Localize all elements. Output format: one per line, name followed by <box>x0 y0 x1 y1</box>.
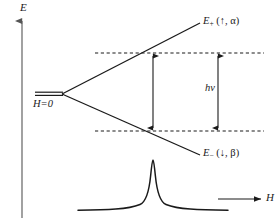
upper-level-label: E+ (↑, α) <box>203 16 239 27</box>
lower-level-subscript: − <box>209 151 213 160</box>
magnetic-field-axis-label: H <box>266 192 274 203</box>
upper-level-subscript: + <box>209 19 213 28</box>
transition-energy-label: hν <box>205 83 215 94</box>
upper-level-terms: (↑, α) <box>216 15 239 26</box>
zeeman-splitting-diagram: E H=0 E+ (↑, α) E− (↓, β) hν H <box>0 0 280 218</box>
lower-level-terms: (↓, β) <box>216 147 239 158</box>
lower-energy-branch <box>62 94 200 155</box>
absorption-peak-curve <box>78 160 228 210</box>
energy-axis-label: E <box>20 2 27 13</box>
zero-field-level <box>35 92 63 95</box>
zero-field-label: H=0 <box>33 99 53 110</box>
upper-energy-branch <box>62 23 200 94</box>
lower-level-label: E− (↓, β) <box>203 148 239 159</box>
